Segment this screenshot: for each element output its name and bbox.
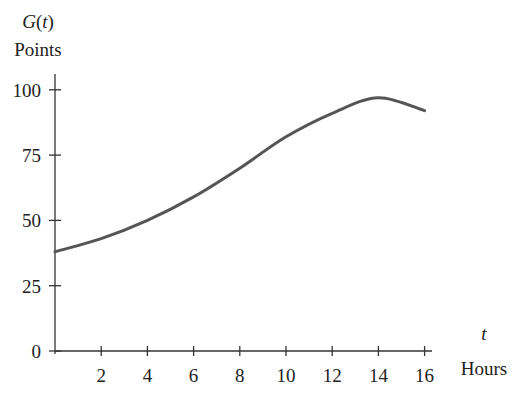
x-tick-label: 12 — [323, 365, 342, 386]
x-axis-variable-label: t — [481, 323, 487, 344]
y-axis-function-label: G(t) — [22, 11, 54, 33]
x-tick-label: 6 — [189, 365, 199, 386]
x-tick-label: 14 — [369, 365, 389, 386]
x-tick-label: 10 — [277, 365, 296, 386]
x-tick-label: 8 — [235, 365, 245, 386]
line-chart: 2468101214160255075100G(t)PointstHours — [0, 0, 522, 398]
y-axis-label: Points — [14, 39, 62, 60]
y-tick-label: 25 — [22, 276, 41, 297]
series-line — [55, 98, 425, 252]
x-tick-label: 4 — [143, 365, 153, 386]
x-tick-label: 2 — [96, 365, 106, 386]
x-tick-label: 16 — [415, 365, 434, 386]
y-tick-label: 0 — [32, 341, 42, 362]
y-tick-label: 75 — [22, 145, 41, 166]
y-tick-label: 100 — [13, 80, 42, 101]
y-tick-label: 50 — [22, 210, 41, 231]
x-axis-label: Hours — [461, 358, 507, 379]
